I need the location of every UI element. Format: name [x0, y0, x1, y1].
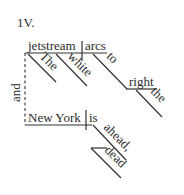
clause2-verb: is	[89, 110, 98, 125]
clause1-verb: arcs	[85, 38, 106, 53]
clause1-subject: jetstream	[27, 38, 76, 53]
clause2-subject: New York	[28, 110, 81, 125]
preposition-to: to	[104, 49, 122, 67]
exercise-number: 1V.	[17, 15, 34, 30]
sentence-diagram: 1V. jetstream arcs The white to right th…	[0, 0, 184, 195]
prep-object-right: right	[129, 74, 154, 89]
conjunction-and: and	[8, 83, 23, 102]
